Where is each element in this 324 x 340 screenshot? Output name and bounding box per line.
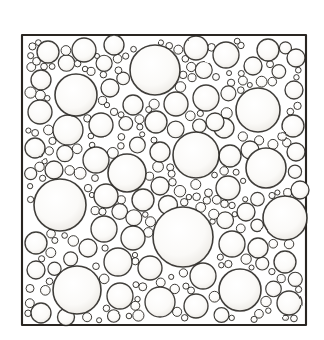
- grain-circle: [62, 233, 68, 239]
- grain-circle: [251, 316, 257, 322]
- grain-circle: [126, 313, 132, 319]
- grain-circle: [115, 67, 122, 74]
- grain-circle: [266, 281, 282, 297]
- grain-circle: [153, 207, 213, 267]
- grain-circle: [234, 38, 240, 44]
- grain-circle: [123, 95, 143, 115]
- grain-circle: [213, 74, 220, 81]
- grain-circle: [267, 61, 274, 68]
- grain-circle: [91, 216, 117, 242]
- grain-circle: [237, 87, 244, 94]
- grain-circle: [118, 134, 125, 141]
- grain-circle: [89, 113, 113, 137]
- grain-circle: [238, 132, 247, 141]
- grain-circle: [35, 90, 45, 100]
- grain-circle: [236, 224, 245, 233]
- grain-circle: [126, 210, 142, 226]
- grain-circle: [220, 167, 228, 175]
- grain-circle: [282, 115, 304, 137]
- grain-circle: [256, 76, 267, 87]
- grain-circle: [219, 231, 245, 257]
- grain-circle: [27, 196, 33, 202]
- grain-circle: [53, 266, 101, 314]
- grain-circle: [169, 274, 174, 279]
- grain-circle: [285, 81, 303, 99]
- grain-circle: [133, 282, 139, 288]
- grain-circle: [37, 41, 59, 63]
- grain-circle: [52, 237, 58, 243]
- circle-packing-figure: [0, 0, 324, 340]
- grain-circle: [49, 64, 55, 70]
- grain-circle: [58, 55, 74, 71]
- grain-circle: [193, 119, 207, 133]
- grain-circle: [55, 74, 97, 116]
- grain-circle: [236, 88, 280, 132]
- grain-circle: [130, 45, 180, 95]
- grain-circle: [295, 286, 301, 292]
- grain-circle: [153, 161, 164, 172]
- grain-circle: [174, 185, 186, 197]
- grain-circle: [205, 189, 213, 197]
- grain-circle: [130, 137, 146, 153]
- grain-circle: [145, 287, 175, 317]
- grain-circle: [119, 117, 133, 131]
- grain-circle: [41, 63, 48, 70]
- grain-circle: [195, 62, 212, 79]
- grain-circle: [72, 144, 82, 154]
- grain-circle: [42, 159, 47, 164]
- grain-circle: [287, 143, 305, 161]
- grain-circle: [65, 166, 75, 176]
- grain-circle: [214, 308, 229, 323]
- grain-circle: [277, 274, 285, 282]
- grain-circle: [132, 189, 154, 211]
- grain-circle: [31, 70, 51, 90]
- grain-circle: [84, 184, 92, 192]
- grain-circle: [104, 35, 124, 55]
- grain-circle: [216, 176, 240, 200]
- grain-circle: [145, 217, 155, 227]
- grain-circle: [291, 181, 309, 199]
- grain-circle: [193, 193, 201, 201]
- grain-circle: [104, 102, 109, 107]
- grain-circle: [268, 77, 277, 86]
- grain-circle: [110, 108, 117, 115]
- grain-circle: [287, 49, 305, 67]
- grain-circle: [244, 57, 262, 75]
- grain-circle: [209, 291, 220, 302]
- grain-circle: [233, 169, 239, 175]
- grain-circle: [99, 208, 106, 215]
- grain-circle: [57, 145, 73, 161]
- grain-circle: [213, 42, 239, 68]
- grain-circle: [188, 74, 196, 82]
- grain-circle: [61, 46, 71, 56]
- grain-circle: [92, 175, 99, 182]
- grain-circle: [91, 207, 99, 215]
- grain-circle: [143, 212, 149, 218]
- grain-circle: [288, 272, 302, 286]
- grain-circle: [108, 154, 146, 192]
- grain-circle: [34, 179, 86, 231]
- grain-circle: [118, 143, 125, 150]
- grain-circle: [26, 284, 34, 292]
- grain-circle: [164, 92, 188, 116]
- grain-circle: [93, 263, 100, 270]
- grain-circle: [256, 257, 269, 270]
- grain-circle: [184, 36, 208, 60]
- grain-circle: [44, 125, 54, 135]
- grain-circle: [225, 260, 232, 267]
- grain-circle: [46, 278, 53, 285]
- grain-circle: [179, 269, 187, 277]
- grain-circle: [103, 305, 110, 312]
- grain-circle: [44, 95, 50, 101]
- grain-circle: [181, 315, 187, 321]
- grain-circle: [251, 219, 263, 231]
- grain-circle: [132, 258, 139, 265]
- grain-circle: [25, 232, 47, 254]
- grain-circle: [133, 310, 144, 321]
- grain-circle: [185, 111, 195, 121]
- grain-circle: [99, 274, 109, 284]
- grain-circle: [113, 54, 122, 63]
- grain-circle: [249, 265, 254, 270]
- grain-circle: [25, 87, 36, 98]
- grain-circle: [27, 184, 32, 189]
